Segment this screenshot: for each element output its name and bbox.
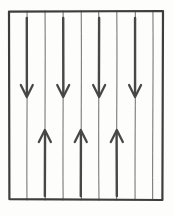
field-line-diagram — [0, 0, 173, 216]
figure-container: Vertical field lines with alternating fl… — [0, 0, 173, 216]
